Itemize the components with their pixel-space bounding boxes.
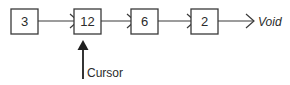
- cursor-arrowhead-icon: [78, 40, 89, 50]
- list-node-1[interactable]: 3: [11, 9, 38, 34]
- list-node-2[interactable]: 12: [74, 9, 101, 34]
- cursor-label: Cursor: [87, 66, 123, 80]
- linked-list-diagram: 3 12 6 2 Void Cursor: [0, 0, 290, 85]
- connector-12-to-6: [101, 14, 135, 28]
- connector-6-to-2: [158, 14, 195, 28]
- node-value: 12: [80, 14, 94, 29]
- list-node-4[interactable]: 2: [191, 9, 218, 34]
- connector-2-to-void: [218, 14, 254, 28]
- node-value: 2: [201, 14, 208, 29]
- list-node-3[interactable]: 6: [131, 9, 158, 34]
- node-value: 3: [21, 14, 28, 29]
- void-terminal-label: Void: [258, 15, 282, 29]
- connector-3-to-12: [38, 14, 78, 28]
- node-value: 6: [141, 14, 148, 29]
- diagram-canvas: 3 12 6 2 Void Cursor: [0, 0, 290, 85]
